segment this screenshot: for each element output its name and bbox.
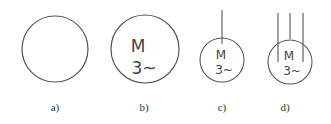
symbol-b: M 3~ b) — [111, 15, 179, 114]
motor-letter: M — [131, 36, 146, 56]
motor-symbols-diagram: a) M 3~ b) M 3~ c) M 3~ d) — [0, 0, 331, 124]
phase-marker: 3~ — [131, 58, 156, 78]
label-d: d) — [280, 101, 290, 114]
label-c: c) — [218, 101, 227, 114]
symbol-a: a) — [22, 16, 88, 114]
plain-circle-icon — [22, 16, 88, 82]
label-b: b) — [139, 101, 149, 114]
label-a: a) — [51, 101, 60, 114]
motor-letter: M — [284, 49, 294, 63]
symbol-d: M 3~ d) — [268, 13, 312, 114]
phase-marker: 3~ — [215, 63, 233, 77]
phase-marker: 3~ — [283, 64, 301, 78]
symbol-c: M 3~ c) — [200, 10, 244, 114]
motor-letter: M — [216, 48, 226, 62]
